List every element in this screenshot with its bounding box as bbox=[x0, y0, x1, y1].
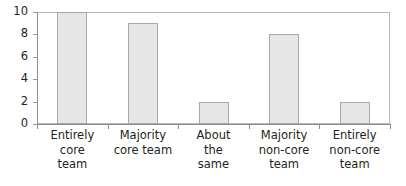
x-axis-category-label: Aboutthesame bbox=[178, 128, 249, 172]
x-axis-category-label-line: About bbox=[178, 128, 249, 143]
x-axis-tick-mark bbox=[37, 125, 38, 129]
bar bbox=[57, 12, 87, 124]
x-axis-tick-mark bbox=[178, 125, 179, 129]
x-axis-category-label-line: team bbox=[249, 157, 320, 172]
y-axis-tick-label: 0 bbox=[21, 117, 28, 130]
x-axis-category-label-line: non-core bbox=[249, 143, 320, 158]
x-axis-line bbox=[37, 124, 391, 125]
y-axis-tick-label: 8 bbox=[21, 27, 28, 40]
y-axis-tick-label: 10 bbox=[13, 5, 28, 18]
x-axis-tick-mark bbox=[319, 125, 320, 129]
x-axis-category-label-line: Majority bbox=[249, 128, 320, 143]
y-axis-tick-label: 2 bbox=[21, 95, 28, 108]
x-axis-category-label: Majoritycore team bbox=[108, 128, 179, 157]
x-axis-category-label: Entirelynon-coreteam bbox=[319, 128, 390, 172]
x-axis-category-label-line: Entirely bbox=[319, 128, 390, 143]
bar-chart: 0246810 EntirelycoreteamMajoritycore tea… bbox=[0, 0, 406, 186]
x-axis-category-label-line: Majority bbox=[108, 128, 179, 143]
x-axis-category-label-line: same bbox=[178, 157, 249, 172]
x-axis-tick-mark bbox=[390, 125, 391, 129]
bar bbox=[340, 102, 370, 124]
y-axis-tick-label: 6 bbox=[21, 50, 28, 63]
bar bbox=[128, 23, 158, 124]
x-axis-category-label-line: team bbox=[37, 157, 108, 172]
x-axis-tick-mark bbox=[249, 125, 250, 129]
x-axis-category-label: Entirelycoreteam bbox=[37, 128, 108, 172]
x-axis-category-label-line: team bbox=[319, 157, 390, 172]
x-axis-category-label-line: core bbox=[37, 143, 108, 158]
x-axis-category-label-line: Entirely bbox=[37, 128, 108, 143]
y-axis-tick-label: 4 bbox=[21, 72, 28, 85]
bars-layer bbox=[37, 12, 390, 124]
x-axis-tick-mark bbox=[108, 125, 109, 129]
x-axis-category-label-line: core team bbox=[108, 143, 179, 158]
bar bbox=[269, 34, 299, 124]
bar bbox=[199, 102, 229, 124]
y-axis-ticks: 0246810 bbox=[0, 0, 37, 186]
x-axis-category-label-line: non-core bbox=[319, 143, 390, 158]
x-axis-category-labels: EntirelycoreteamMajoritycore teamAboutth… bbox=[37, 128, 390, 186]
x-axis-category-label: Majoritynon-coreteam bbox=[249, 128, 320, 172]
x-axis-category-label-line: the bbox=[178, 143, 249, 158]
